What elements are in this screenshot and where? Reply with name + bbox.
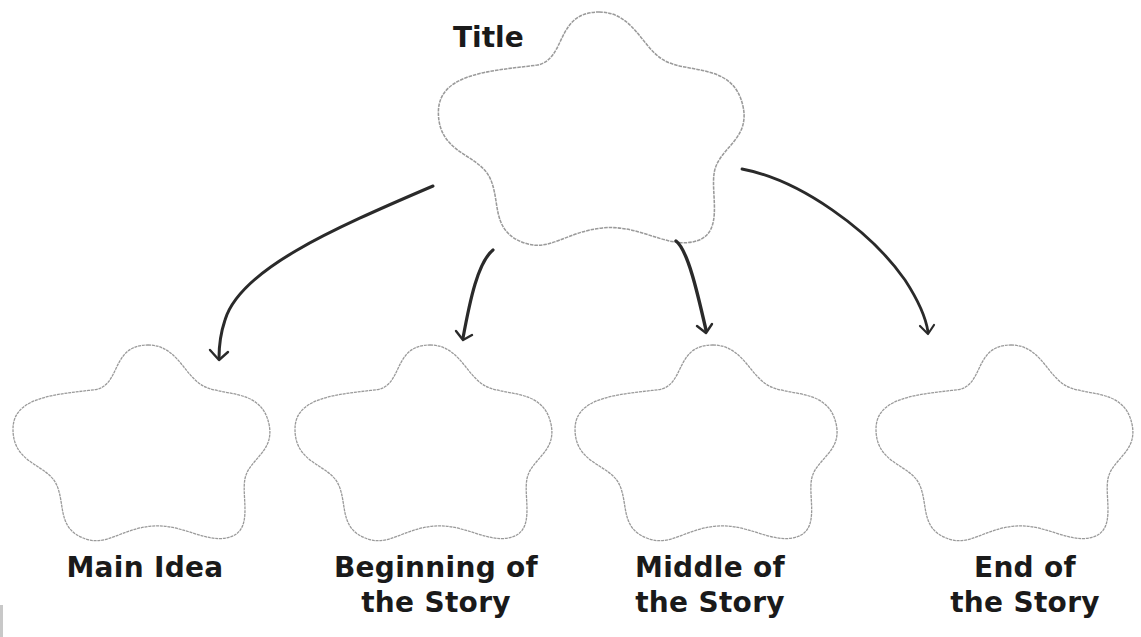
middle-label: Middle of the Story [595, 550, 825, 620]
arrow-to-middle [676, 241, 712, 333]
arrow-to-beginning [456, 250, 493, 340]
end-cloud[interactable] [876, 345, 1133, 541]
beginning-label-line-2: the Story [316, 585, 556, 620]
title-label: Title [453, 22, 524, 54]
beginning-label-line-1: Beginning of [316, 550, 556, 585]
beginning-label: Beginning of the Story [316, 550, 556, 620]
main-idea-label: Main Idea [40, 550, 250, 585]
arrow-to-main-idea [210, 186, 433, 360]
arrow-to-end [742, 169, 934, 334]
end-label: End of the Story [910, 550, 1140, 620]
diagram-canvas [0, 0, 1141, 637]
beginning-cloud[interactable] [295, 345, 552, 541]
middle-cloud[interactable] [575, 345, 837, 541]
main-idea-label-line-1: Main Idea [40, 550, 250, 585]
end-label-line-2: the Story [910, 585, 1140, 620]
middle-label-line-2: the Story [595, 585, 825, 620]
end-label-line-1: End of [910, 550, 1140, 585]
scan-edge-line [0, 605, 3, 637]
main-idea-cloud[interactable] [13, 345, 270, 541]
middle-label-line-1: Middle of [595, 550, 825, 585]
